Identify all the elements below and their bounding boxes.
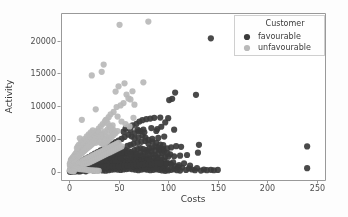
scatter-plot-figure (0, 0, 348, 217)
scatter-plot-canvas (0, 0, 348, 217)
